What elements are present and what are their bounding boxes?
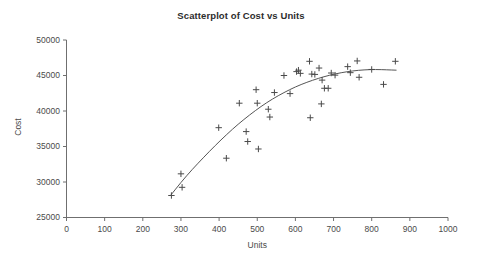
y-axis-ticks xyxy=(63,40,67,218)
x-axis-ticks xyxy=(67,218,449,222)
x-axis-tick-label: 900 xyxy=(390,224,430,234)
data-point xyxy=(287,90,293,96)
data-point xyxy=(356,74,362,80)
data-point xyxy=(243,128,249,134)
data-point xyxy=(316,65,322,71)
data-point xyxy=(281,72,287,78)
y-axis-tick-label: 45000 xyxy=(18,70,60,80)
x-axis-tick-label: 800 xyxy=(352,224,392,234)
y-axis-tick-label: 35000 xyxy=(18,141,60,151)
data-point xyxy=(318,101,324,107)
data-point xyxy=(267,114,273,120)
data-point xyxy=(223,155,229,161)
data-point xyxy=(245,138,251,144)
data-point xyxy=(255,146,261,152)
y-axis-tick-label: 25000 xyxy=(18,212,60,222)
data-point xyxy=(312,71,318,77)
trend-line xyxy=(170,70,396,196)
x-axis-tick-label: 0 xyxy=(47,224,87,234)
data-point xyxy=(179,184,185,190)
x-axis-tick-label: 1000 xyxy=(428,224,468,234)
data-point xyxy=(168,192,174,198)
data-point xyxy=(307,115,313,121)
data-point xyxy=(325,85,331,91)
data-point xyxy=(354,58,360,64)
x-axis-tick-label: 300 xyxy=(161,224,201,234)
data-point xyxy=(178,171,184,177)
data-point xyxy=(344,63,350,69)
data-point xyxy=(347,69,353,75)
data-point xyxy=(236,100,242,106)
y-axis-tick-label: 50000 xyxy=(18,35,60,45)
x-axis-tick-label: 100 xyxy=(85,224,125,234)
x-axis-tick-label: 600 xyxy=(275,224,315,234)
x-axis-title: Units xyxy=(217,240,297,250)
data-point xyxy=(265,106,271,112)
y-axis-tick-label: 30000 xyxy=(18,177,60,187)
x-axis-tick-label: 500 xyxy=(237,224,277,234)
x-axis-tick-label: 400 xyxy=(199,224,239,234)
data-point-markers xyxy=(168,58,398,199)
data-point xyxy=(392,58,398,64)
x-axis-tick-label: 200 xyxy=(123,224,163,234)
data-point xyxy=(306,58,312,64)
data-point xyxy=(369,66,375,72)
axis-lines xyxy=(66,40,448,218)
x-axis-tick-label: 700 xyxy=(314,224,354,234)
data-point xyxy=(380,81,386,87)
data-point xyxy=(271,89,277,95)
y-axis-tick-label: 40000 xyxy=(18,106,60,116)
data-point xyxy=(253,87,259,93)
scatterplot-figure: Scatterplot of Cost vs Units 25000300003… xyxy=(0,0,482,264)
data-point xyxy=(254,100,260,106)
data-point xyxy=(216,124,222,130)
y-axis-title: Cost xyxy=(13,97,23,157)
